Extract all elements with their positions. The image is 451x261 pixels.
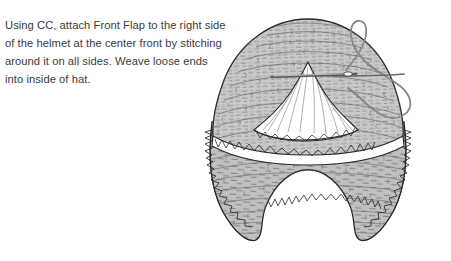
needle-eye: [344, 72, 352, 76]
crochet-helmet-hat-illustration: [182, 14, 434, 257]
page-canvas: Using CC, attach Front Flap to the right…: [0, 0, 451, 261]
